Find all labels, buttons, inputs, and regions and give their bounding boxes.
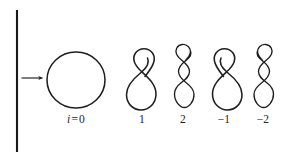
curve-index-0: [47, 52, 105, 108]
curve-index-2: [175, 44, 195, 107]
curve-index-minus-2: [254, 44, 274, 107]
curve-index-1: [127, 49, 157, 110]
curve-diagram-svg: [0, 0, 291, 163]
curve-index-minus-1: [213, 49, 243, 110]
figure-canvas: i=0 1 2 −1 −2: [0, 0, 291, 163]
incoming-arrow: [22, 76, 44, 80]
